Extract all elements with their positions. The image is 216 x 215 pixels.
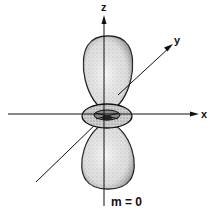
lower-lobe — [82, 121, 134, 189]
upper-lobe — [83, 36, 132, 113]
z-axis-arrowhead-icon — [102, 15, 107, 24]
y-axis-arrowhead-icon — [164, 44, 173, 52]
y-axis-label: y — [174, 35, 180, 46]
x-axis-arrowhead-icon — [190, 112, 199, 117]
torus — [82, 104, 132, 128]
figure-caption: m = 0 — [111, 196, 142, 208]
orbital-diagram — [0, 0, 216, 215]
x-axis-label: x — [201, 109, 207, 120]
z-axis-label: z — [101, 2, 107, 13]
